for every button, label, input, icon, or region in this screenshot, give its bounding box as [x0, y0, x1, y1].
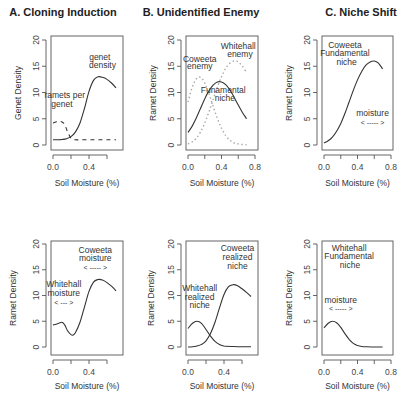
double-arrow-icon: < --- >	[54, 299, 73, 306]
x-tick-label: 0.0	[47, 162, 59, 172]
x-axis-label: Soil Moisture (%)	[325, 381, 390, 391]
x-axis-label: Soil Moisture (%)	[55, 381, 120, 391]
y-tick-label: 0	[302, 344, 312, 349]
series-line	[324, 321, 383, 347]
x-axis-label: Soil Moisture (%)	[55, 178, 120, 188]
y-tick-label: 20	[166, 239, 176, 249]
annotation-text: density	[89, 60, 117, 70]
panel-c-bottom: 051015200.00.40.8Soil Moisture (%)Ramet …	[284, 239, 397, 391]
x-tick-label: 0.0	[318, 162, 330, 172]
x-tick-label: 0.4	[352, 162, 364, 172]
annotation-text: moisture	[356, 108, 389, 118]
y-tick-label: 0	[302, 142, 312, 147]
y-tick-label: 5	[302, 116, 312, 121]
x-tick-label: 0.4	[83, 162, 95, 172]
y-tick-label: 5	[31, 319, 41, 324]
y-tick-label: 15	[31, 61, 41, 71]
y-axis-label: Ramet Density	[284, 64, 294, 120]
y-tick-label: 0	[31, 344, 41, 349]
y-axis-label: Ramet Density	[146, 269, 156, 325]
x-tick-label: 0.0	[318, 367, 330, 377]
y-axis-label: Ramet Density	[284, 269, 294, 325]
x-tick-label: 0.0	[47, 367, 59, 377]
annotation-text: genet	[51, 99, 73, 109]
panel-a-bottom: 051015200.00.4Soil Moisture (%)Ramet Den…	[8, 239, 123, 391]
series-line	[188, 321, 251, 346]
x-tick-label: 0.4	[216, 162, 228, 172]
y-tick-label: 5	[166, 319, 176, 324]
y-tick-label: 15	[31, 265, 41, 275]
x-tick-label: 0.8	[249, 162, 261, 172]
y-tick-label: 15	[302, 265, 312, 275]
annotation-text: moisture	[48, 288, 81, 298]
y-axis-label: Ramet Density	[148, 64, 158, 120]
panel-b-title: B. Unidentified Enemy	[143, 6, 261, 18]
y-tick-label: 0	[31, 142, 41, 147]
double-arrow-icon: < ----- >	[83, 264, 107, 271]
y-tick-label: 0	[166, 344, 176, 349]
panel-c-title: C. Niche Shift	[325, 6, 397, 18]
y-tick-label: 10	[31, 88, 41, 98]
annotation-text: enemy	[227, 49, 253, 59]
x-tick-label: 0.0	[182, 162, 194, 172]
annotation-text: niche	[215, 93, 236, 103]
figure-canvas: A. Cloning Induction B. Unidentified Ene…	[0, 0, 403, 403]
annotation-text: niche	[340, 260, 361, 270]
y-tick-label: 20	[302, 239, 312, 249]
y-tick-label: 5	[302, 319, 312, 324]
annotation-text: moisture	[324, 295, 357, 305]
double-arrow-icon: < ----- >	[329, 305, 353, 312]
annotation-text: niche	[227, 261, 248, 271]
x-tick-label: 0.4	[352, 367, 364, 377]
series-line	[53, 121, 116, 139]
x-axis-label: Soil Moisture (%)	[190, 178, 255, 188]
annotation-text: enemy	[187, 61, 213, 71]
annotation-text: niche	[336, 57, 357, 67]
annotation-text: moisture	[79, 253, 112, 263]
y-tick-label: 20	[31, 35, 41, 45]
double-arrow-icon: < ----- >	[361, 119, 385, 126]
y-axis-label: Ramet Density	[8, 269, 18, 325]
x-tick-label: 0.8	[385, 162, 397, 172]
y-tick-label: 5	[166, 116, 176, 121]
panel-a-title: A. Cloning Induction	[9, 6, 117, 18]
y-tick-label: 10	[31, 291, 41, 301]
y-tick-label: 15	[166, 265, 176, 275]
x-axis-label: Soil Moisture (%)	[190, 381, 255, 391]
y-axis-label: Genet Density	[13, 65, 23, 120]
y-tick-label: 10	[302, 88, 312, 98]
y-tick-label: 0	[166, 142, 176, 147]
x-tick-label: 0.0	[182, 367, 194, 377]
plot-panels: 051015200.00.4Soil Moisture (%)Genet Den…	[8, 35, 397, 391]
panel-c-top: 051015200.00.40.8Soil Moisture (%)Ramet …	[284, 35, 397, 188]
x-tick-label: 0.4	[83, 367, 95, 377]
annotation-text: niche	[190, 300, 211, 310]
series-line	[324, 61, 383, 143]
y-tick-label: 20	[166, 35, 176, 45]
x-tick-label: 0.4	[218, 367, 230, 377]
y-tick-label: 15	[302, 61, 312, 71]
x-tick-label: 0.8	[385, 367, 397, 377]
x-axis-label: Soil Moisture (%)	[325, 178, 390, 188]
y-tick-label: 5	[31, 116, 41, 121]
y-tick-label: 10	[166, 291, 176, 301]
panel-b-bottom: 051015200.00.4Soil Moisture (%)Ramet Den…	[146, 239, 258, 391]
panel-b-top: 051015200.00.40.8Soil Moisture (%)Ramet …	[148, 35, 261, 188]
y-tick-label: 15	[166, 61, 176, 71]
y-tick-label: 20	[302, 35, 312, 45]
y-tick-label: 20	[31, 239, 41, 249]
panel-a-top: 051015200.00.4Soil Moisture (%)Genet Den…	[13, 35, 123, 188]
y-tick-label: 10	[302, 291, 312, 301]
y-tick-label: 10	[166, 88, 176, 98]
